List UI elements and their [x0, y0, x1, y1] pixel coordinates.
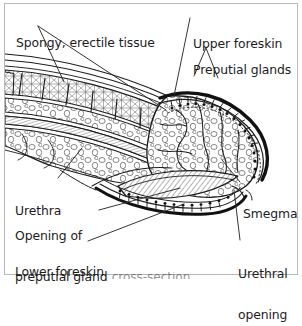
- label-preputial-glands-text: Preputial glands: [193, 63, 291, 77]
- label-preputial-glands: Preputial glands: [193, 36, 291, 104]
- label-spongy-erectile-tissue: Spongy, erectile tissue: [16, 9, 155, 77]
- label-smegma-text: Smegma: [243, 207, 298, 221]
- label-spongy-text: Spongy, erectile tissue: [16, 36, 155, 50]
- clipped-caption-text: cross-section: [0, 272, 302, 279]
- label-urethral-opening-line2: opening: [238, 308, 288, 322]
- label-smegma: Smegma: [243, 180, 298, 248]
- label-urethral-opening: Urethral opening: [238, 240, 288, 326]
- clipped-caption: cross-section: [0, 272, 302, 279]
